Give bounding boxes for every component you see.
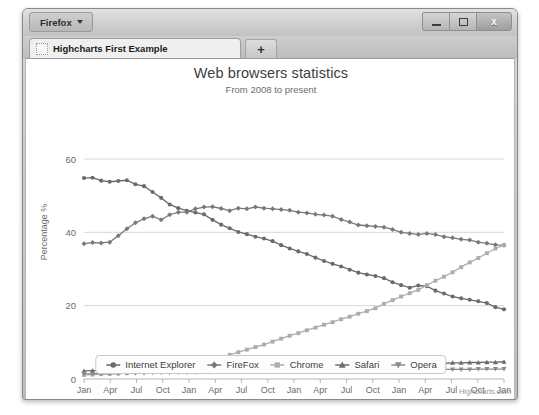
series-marker [125,178,129,182]
series-marker [270,206,275,211]
series-line [84,178,504,310]
series-marker [502,243,506,247]
new-tab-button[interactable]: + [245,39,277,59]
firefox-menu-label: Firefox [40,17,72,28]
series-marker [339,217,344,222]
chart-series [82,204,507,248]
series-marker [356,223,361,228]
series-marker [236,350,240,354]
series-marker [365,309,369,313]
diamond-marker-icon [207,360,223,370]
x-tick-label: Apr [103,385,117,395]
legend-item[interactable]: Safari [335,359,380,370]
chart-credits: Highcharts.com [459,387,511,396]
legend-item[interactable]: Chrome [270,359,324,370]
minimize-icon [432,24,441,26]
series-marker [279,207,284,212]
firefox-menu-button[interactable]: Firefox [29,12,93,32]
series-marker [399,283,403,287]
series-marker [399,295,403,299]
x-tick-label: Apr [208,385,222,395]
series-line [84,207,504,246]
series-marker [348,315,352,319]
series-marker [433,289,437,293]
series-marker [331,262,335,266]
maximize-button[interactable] [449,12,477,31]
series-marker [219,206,224,211]
series-marker [408,286,412,290]
chart-legend: Internet ExplorerFireFoxChromeSafariOper… [95,355,446,374]
series-marker [373,224,378,229]
series-marker [382,302,386,306]
x-tick-label: Apr [418,385,432,395]
series-marker [227,208,232,213]
x-year-label: 2010 [284,396,304,398]
series-marker [193,206,198,211]
minimize-button[interactable] [422,12,450,31]
browser-window: Firefox x Highcharts First Example [22,8,518,400]
maximize-icon [459,18,468,26]
series-marker [416,283,420,287]
x-tick-label: Jan [182,385,197,395]
series-marker [459,237,464,242]
series-marker [493,247,497,251]
series-marker [416,288,420,292]
series-marker [468,298,472,302]
legend-item-label: Internet Explorer [125,359,195,370]
series-marker [219,223,223,227]
chart-series [82,176,506,312]
series-marker [253,235,257,239]
page-favicon-icon [36,43,48,55]
series-marker [99,179,103,183]
series-marker [442,275,446,279]
series-marker [288,334,292,338]
legend-item[interactable]: Opera [390,359,436,370]
series-marker [391,298,395,302]
highcharts-chart: Web browsers statistics From 2008 to pre… [26,59,515,398]
legend-item-label: Chrome [290,359,324,370]
x-tick-label: Jan [392,385,407,395]
close-button[interactable]: x [476,12,512,31]
series-marker [108,180,112,184]
series-marker [451,270,455,274]
series-marker [151,190,155,194]
legend-item[interactable]: Internet Explorer [105,359,195,370]
series-marker [365,272,369,276]
x-tick-label: Oct [261,385,276,395]
series-marker [348,268,352,272]
series-marker [347,220,352,225]
window-controls: x [423,12,512,29]
series-marker [484,241,489,246]
series-marker [451,294,455,298]
series-marker [373,274,377,278]
series-marker [313,256,317,260]
series-marker [322,259,326,263]
page-content: Web browsers statistics From 2008 to pre… [25,58,515,400]
x-tick-label: Jul [341,385,353,395]
series-marker [271,239,275,243]
x-year-label: 2012 [494,396,514,398]
plus-icon: + [257,43,265,56]
series-marker [399,230,404,235]
series-marker [433,279,437,283]
series-marker [271,340,275,344]
series-marker [339,264,343,268]
series-marker [442,292,446,296]
series-marker [322,213,327,218]
legend-item[interactable]: FireFox [207,359,259,370]
series-marker [253,345,257,349]
y-tick-label: 20 [65,300,76,311]
tab-highcharts-first-example[interactable]: Highcharts First Example [29,38,241,58]
series-marker [382,225,387,230]
x-year-label: 2009 [179,396,199,398]
series-marker [313,212,318,217]
triangle-down-marker-icon [390,360,406,370]
series-marker [82,241,87,246]
x-year-label: 2008 [74,396,94,398]
tab-title: Highcharts First Example [53,43,168,54]
x-tick-label: Jul [236,385,248,395]
series-marker [262,237,266,241]
series-marker [90,240,95,245]
series-marker [296,331,300,335]
series-marker [253,205,258,210]
